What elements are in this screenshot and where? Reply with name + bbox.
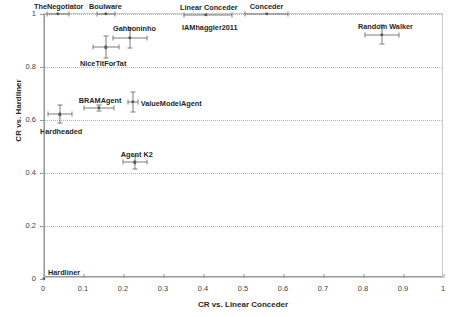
x-error-cap (97, 12, 98, 17)
x-tick-label: 0.2 (118, 284, 128, 293)
point-label: Boulware (89, 2, 122, 11)
point-marker[interactable] (131, 100, 134, 103)
point-marker[interactable] (58, 112, 61, 115)
x-error-cap (118, 45, 119, 50)
x-error-cap (46, 12, 47, 17)
x-tick (164, 274, 165, 278)
x-tick-label: 0.7 (318, 284, 328, 293)
x-error-cap (287, 12, 288, 17)
point-label: Hardheaded (40, 127, 82, 136)
point-label: BRAMAgent (79, 96, 122, 105)
y-tick (40, 226, 44, 227)
x-error-cap (93, 45, 94, 50)
y-axis-line (44, 14, 45, 277)
x-tick-label: 0.9 (398, 284, 408, 293)
point-label: IAMhaggler2011 (182, 23, 238, 32)
x-error-cap (364, 32, 365, 37)
x-error-bar (184, 14, 232, 15)
x-error-cap (69, 12, 70, 17)
y-error-cap (58, 123, 63, 124)
point-marker[interactable] (97, 106, 100, 109)
y-error-cap (130, 91, 135, 92)
gridline (44, 226, 442, 227)
y-tick (40, 120, 44, 121)
x-tick (244, 274, 245, 278)
y-error-cap (104, 35, 109, 36)
x-tick (404, 274, 405, 278)
y-tick-label: 0 (8, 274, 36, 283)
y-error-cap (96, 111, 101, 112)
x-error-cap (122, 160, 123, 165)
point-label: TheNegotiator (34, 2, 83, 11)
point-marker[interactable] (56, 12, 59, 15)
point-marker[interactable] (265, 12, 268, 15)
point-label: Agent K2 (121, 150, 153, 159)
point-marker[interactable] (380, 33, 383, 36)
x-error-cap (146, 160, 147, 165)
x-tick-label: 0.6 (278, 284, 288, 293)
x-tick-label: 0.4 (198, 284, 208, 293)
y-tick (40, 173, 44, 174)
point-label: NiceTitForTat (80, 59, 126, 68)
point-marker[interactable] (204, 13, 207, 16)
point-label: Linear Conceder (180, 3, 238, 12)
x-error-cap (184, 12, 185, 17)
x-tick (124, 274, 125, 278)
plot-area: TheNegotiatorBoulwareLinear ConcederConc… (43, 13, 443, 278)
y-error-cap (380, 43, 385, 44)
x-tick-label: 0.1 (78, 284, 88, 293)
x-tick (44, 274, 45, 278)
x-tick (284, 274, 285, 278)
gridline (44, 173, 442, 174)
point-marker[interactable] (133, 161, 136, 164)
x-error-cap (232, 12, 233, 17)
x-error-cap (114, 106, 115, 111)
x-error-cap (83, 106, 84, 111)
x-tick (444, 274, 445, 278)
x-error-cap (114, 12, 115, 17)
y-tick-label: 1 (8, 9, 36, 18)
point-marker[interactable] (104, 45, 107, 48)
y-error-cap (130, 112, 135, 113)
x-axis-title: CR vs. Linear Conceder (43, 300, 443, 309)
x-error-cap (48, 112, 49, 117)
x-error-cap (244, 12, 245, 17)
gridline (44, 120, 442, 121)
x-tick-label: 1 (441, 284, 445, 293)
y-tick (40, 279, 44, 280)
y-error-cap (58, 104, 63, 105)
x-tick-label: 0.5 (238, 284, 248, 293)
x-error-cap (137, 99, 138, 104)
chart-page: TheNegotiatorBoulwareLinear ConcederConc… (0, 0, 457, 317)
x-tick (324, 274, 325, 278)
x-error-cap (146, 35, 147, 40)
point-label: Gahboninho (113, 24, 156, 33)
point-marker[interactable] (104, 12, 107, 15)
point-marker[interactable] (128, 36, 131, 39)
point-label: ValueModelAgent (141, 99, 202, 108)
y-error-cap (132, 169, 137, 170)
y-tick (40, 14, 44, 15)
x-tick (84, 274, 85, 278)
x-error-cap (72, 112, 73, 117)
y-error-cap (128, 47, 133, 48)
x-tick (204, 274, 205, 278)
x-tick-label: 0 (41, 284, 45, 293)
x-tick-label: 0.3 (158, 284, 168, 293)
y-axis-title: CR vs. Hardliner (14, 51, 23, 171)
x-error-cap (113, 35, 114, 40)
x-error-cap (399, 32, 400, 37)
x-error-cap (128, 99, 129, 104)
y-tick (40, 67, 44, 68)
x-tick (364, 274, 365, 278)
point-label: Random Walker (358, 22, 413, 31)
x-tick-label: 0.8 (358, 284, 368, 293)
point-label: Conceder (250, 2, 284, 11)
y-tick-label: 0.2 (8, 221, 36, 230)
